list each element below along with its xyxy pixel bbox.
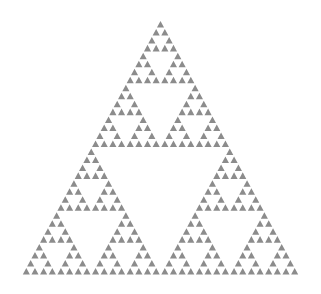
sierpinski-triangle <box>0 0 321 294</box>
sierpinski-triangle-figure <box>0 0 321 294</box>
sierpinski-leaf-triangles <box>23 21 298 275</box>
